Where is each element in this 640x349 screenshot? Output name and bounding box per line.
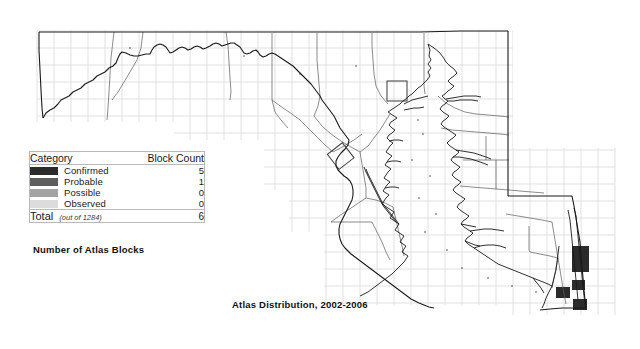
atlas-block-probable xyxy=(387,81,407,101)
legend: Category Block Count Confirmed 5 Probabl… xyxy=(29,151,205,223)
legend-total-count: 6 xyxy=(126,210,204,223)
legend-label-probable: Probable xyxy=(64,176,126,187)
swatch-observed xyxy=(30,200,58,208)
legend-label-confirmed: Confirmed xyxy=(64,165,126,177)
legend-header-category: Category xyxy=(30,152,126,165)
legend-count-possible: 0 xyxy=(126,187,204,198)
legend-swatch-cell xyxy=(30,198,64,210)
swatch-possible xyxy=(30,189,58,197)
map-figure: Category Block Count Confirmed 5 Probabl… xyxy=(0,0,640,349)
legend-swatch-cell xyxy=(30,176,64,187)
swatch-probable xyxy=(30,178,58,186)
legend-row-observed: Observed 0 xyxy=(30,198,204,210)
legend-row-possible: Possible 0 xyxy=(30,187,204,198)
swatch-confirmed xyxy=(30,167,58,175)
legend-total-label-cell: Total (out of 1284) xyxy=(30,210,126,223)
legend-row-total: Total (out of 1284) 6 xyxy=(30,210,204,223)
legend-count-probable: 1 xyxy=(126,176,204,187)
map-title: Atlas Distribution, 2002-2006 xyxy=(232,299,368,310)
legend-table: Category Block Count Confirmed 5 Probabl… xyxy=(30,152,204,222)
legend-caption: Number of Atlas Blocks xyxy=(33,244,144,255)
legend-count-observed: 0 xyxy=(126,198,204,210)
legend-row-confirmed: Confirmed 5 xyxy=(30,165,204,177)
legend-count-confirmed: 5 xyxy=(126,165,204,177)
legend-header-row: Category Block Count xyxy=(30,152,204,165)
legend-label-observed: Observed xyxy=(64,198,126,210)
legend-header-count: Block Count xyxy=(126,152,204,165)
legend-total-sublabel: (out of 1284) xyxy=(56,213,102,222)
legend-label-possible: Possible xyxy=(64,187,126,198)
legend-swatch-cell xyxy=(30,165,64,177)
legend-row-probable: Probable 1 xyxy=(30,176,204,187)
legend-total-label: Total xyxy=(30,210,53,222)
legend-swatch-cell xyxy=(30,187,64,198)
